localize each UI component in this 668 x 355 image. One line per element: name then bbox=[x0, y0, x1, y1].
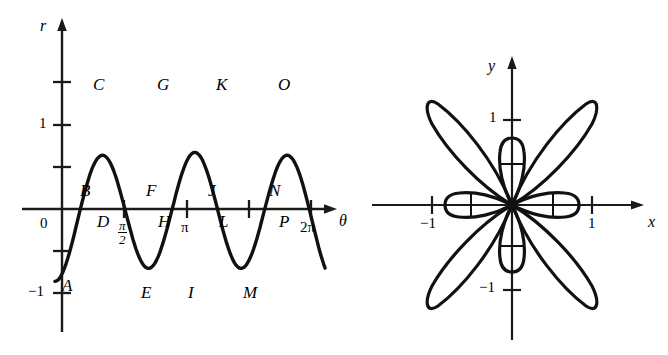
x-tick-label-pi: π bbox=[181, 220, 189, 235]
figure-root: r θ 0 1 −1 π 2 π 2π A B C D E F G H I J … bbox=[0, 0, 668, 355]
point-label-L: L bbox=[219, 213, 228, 230]
point-label-D: D bbox=[97, 213, 109, 230]
point-label-N: N bbox=[269, 182, 280, 199]
polar-x-tick-label-1: 1 bbox=[588, 216, 596, 231]
y-axis-label: y bbox=[488, 58, 495, 74]
pi-over-2-denominator: 2 bbox=[118, 233, 127, 246]
point-label-K: K bbox=[216, 76, 227, 93]
theta-axis-label: θ bbox=[339, 213, 347, 229]
x-axis-label: x bbox=[648, 214, 655, 230]
point-label-H: H bbox=[158, 213, 170, 230]
cartesian-plot-svg bbox=[0, 0, 348, 355]
polar-rose-svg bbox=[348, 0, 668, 355]
origin-label: 0 bbox=[40, 216, 48, 231]
point-label-M: M bbox=[243, 284, 257, 301]
point-label-F: F bbox=[146, 182, 156, 199]
cartesian-plot-panel: r θ 0 1 −1 π 2 π 2π A B C D E F G H I J … bbox=[0, 0, 348, 355]
polar-x-tick-label-neg1: −1 bbox=[420, 216, 436, 231]
point-label-O: O bbox=[278, 76, 290, 93]
point-label-E: E bbox=[141, 284, 151, 301]
point-label-A: A bbox=[62, 277, 72, 294]
r-axis-label: r bbox=[40, 18, 46, 34]
polar-y-tick-label-1: 1 bbox=[489, 110, 497, 125]
y-tick-label-neg1: −1 bbox=[28, 284, 44, 299]
polar-rose-panel: x y 1 −1 1 −1 bbox=[348, 0, 668, 355]
point-label-C: C bbox=[93, 76, 104, 93]
x-tick-label-pi-over-2: π 2 bbox=[118, 219, 127, 247]
point-label-J: J bbox=[208, 182, 216, 199]
theta-axis bbox=[22, 204, 337, 214]
polar-y-tick-label-neg1: −1 bbox=[479, 280, 495, 295]
point-label-G: G bbox=[157, 76, 169, 93]
point-label-B: B bbox=[80, 182, 90, 199]
point-label-P: P bbox=[279, 213, 289, 230]
y-tick-label-1: 1 bbox=[39, 116, 47, 131]
pi-over-2-numerator: π bbox=[118, 219, 127, 233]
point-label-I: I bbox=[188, 284, 194, 301]
x-tick-label-2pi: 2π bbox=[300, 220, 315, 235]
